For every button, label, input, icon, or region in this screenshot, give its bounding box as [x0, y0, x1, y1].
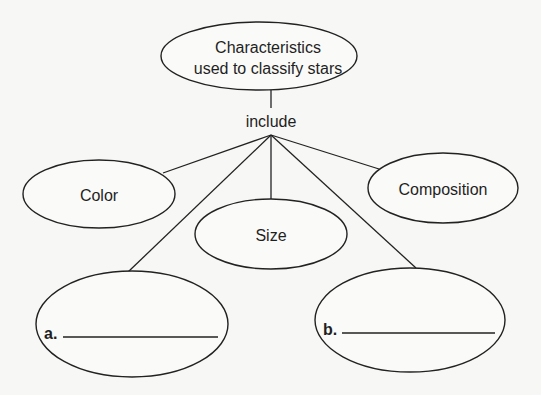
connector-composition [271, 135, 379, 169]
node-size-label: Size [255, 225, 286, 246]
root-label-line-2: used to classify stars [194, 58, 343, 79]
blank-b-marker: b. [323, 321, 337, 339]
blank-a-input[interactable] [65, 318, 217, 336]
node-composition-label: Composition [399, 179, 488, 200]
root-label-line-1: Characteristics [194, 37, 343, 58]
node-color-label: Color [80, 185, 118, 206]
blank-b-input[interactable] [344, 314, 494, 332]
blank-a-marker: a. [44, 325, 57, 343]
concept-map: Characteristics used to classify stars i… [0, 0, 541, 395]
root-node-label: Characteristics used to classify stars [194, 37, 343, 79]
connector-label-include: include [246, 111, 297, 132]
connector-color [163, 135, 271, 173]
